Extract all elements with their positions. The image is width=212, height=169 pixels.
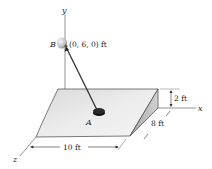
puck-A	[93, 108, 105, 116]
z-axis	[20, 137, 36, 156]
point-B-label: B	[49, 40, 56, 49]
z-axis-label: z	[12, 155, 18, 164]
point-B-coordinates: (0, 6, 0) ft	[69, 40, 107, 49]
width-dimension-label: 10 ft	[63, 143, 81, 152]
depth-dimension-label: 8 ft	[151, 119, 164, 128]
point-A-label: A	[85, 118, 92, 127]
ramp-cable-diagram: y x z 2 ft 8 ft 10 ft	[0, 0, 212, 169]
height-dimension-label: 2 ft	[174, 94, 187, 103]
x-axis-label: x	[198, 104, 203, 113]
y-axis-label: y	[61, 6, 67, 15]
sphere-B	[57, 38, 68, 49]
